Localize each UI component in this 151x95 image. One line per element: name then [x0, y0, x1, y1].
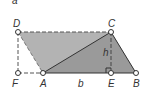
point-e — [109, 71, 114, 76]
point-b — [134, 71, 139, 76]
label-height-h: h — [103, 47, 109, 58]
point-c — [109, 30, 114, 35]
label-f: F — [12, 78, 19, 89]
label-d: D — [13, 18, 20, 29]
point-f — [16, 71, 21, 76]
parallelogram-diagram: a D C F A b E B h — [0, 0, 151, 95]
label-e: E — [108, 78, 115, 89]
point-a — [41, 71, 46, 76]
label-c: C — [108, 18, 116, 29]
label-base-b: b — [78, 78, 84, 89]
figure-corner-label: a — [12, 0, 18, 6]
label-b: B — [133, 78, 140, 89]
label-a: A — [39, 78, 47, 89]
point-d — [16, 30, 21, 35]
